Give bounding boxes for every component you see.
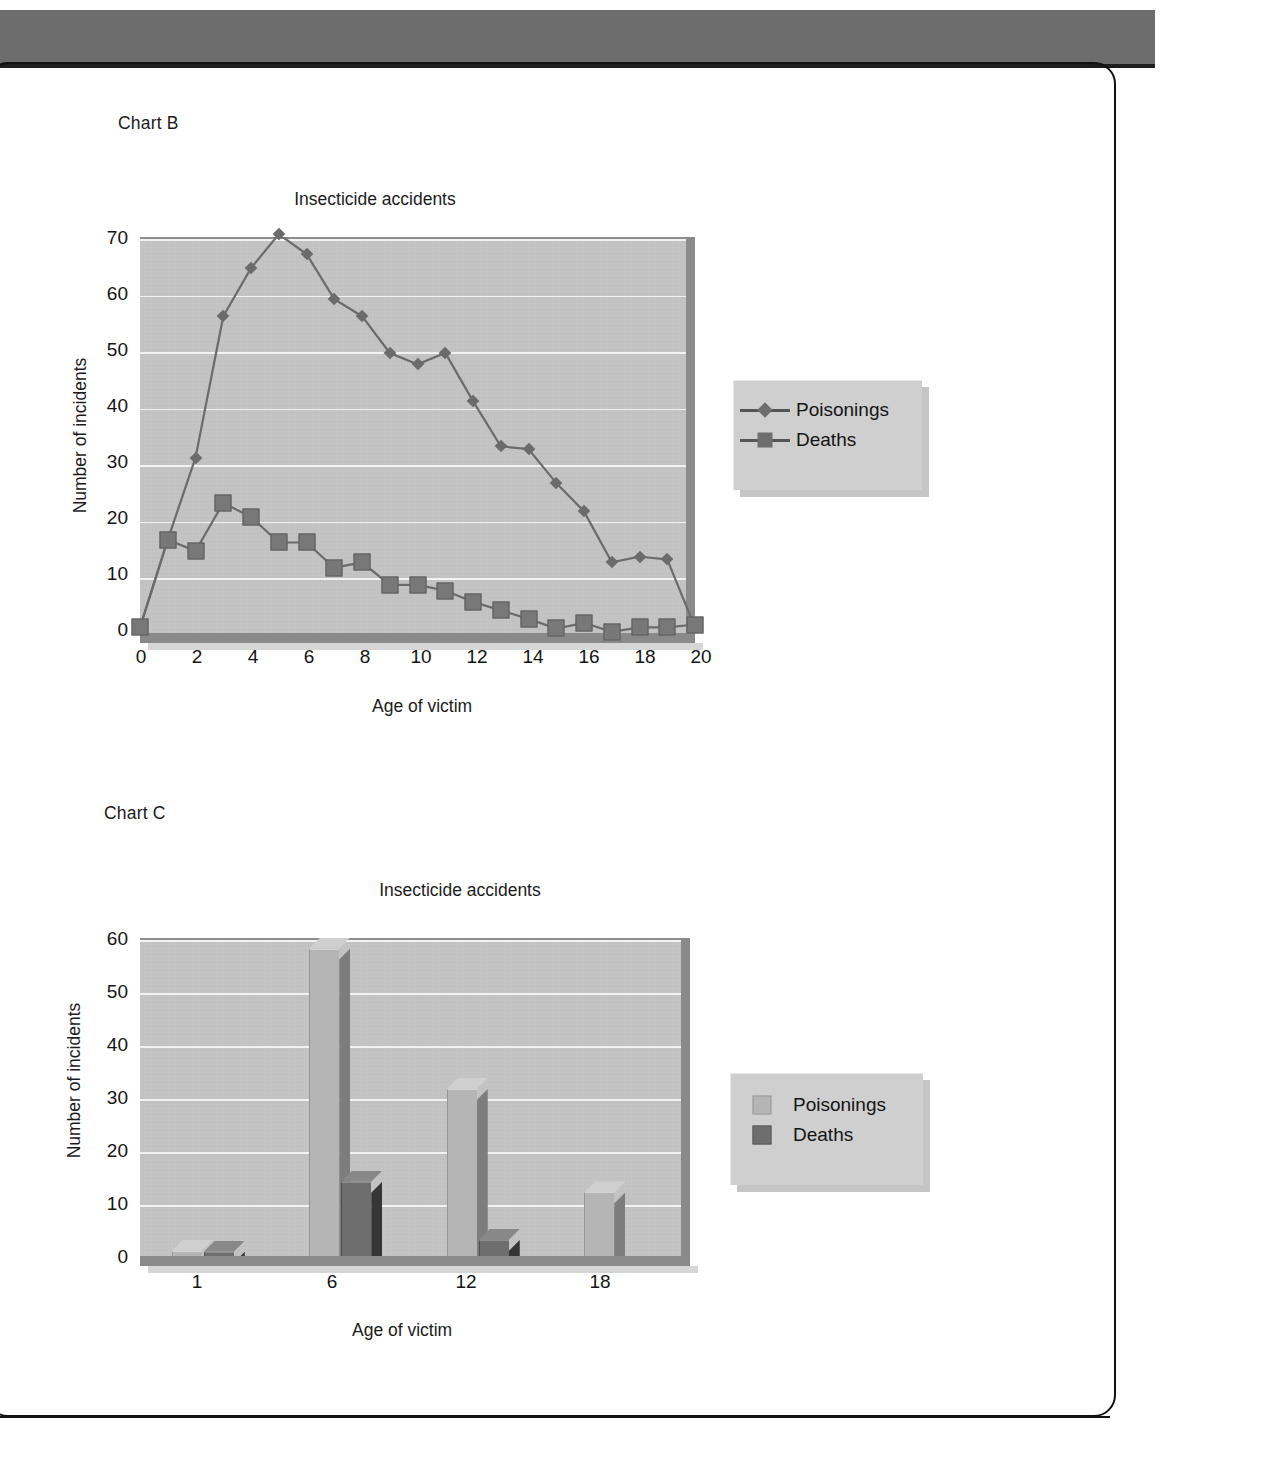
bar-3d-side xyxy=(614,1192,625,1256)
bar-3d-top xyxy=(447,1078,488,1089)
bar[interactable] xyxy=(479,1240,509,1256)
deaths-swatch-icon xyxy=(731,1120,793,1150)
chart-c-ytick: 40 xyxy=(84,1034,128,1056)
poisonings-swatch-icon xyxy=(731,1090,793,1120)
chart-c-legend: Poisonings Deaths xyxy=(730,1073,923,1185)
chart-c-floor xyxy=(140,1256,690,1266)
legend-label-poisonings: Poisonings xyxy=(793,1094,886,1116)
bar-3d-top xyxy=(584,1181,625,1192)
chart-c-xtick: 1 xyxy=(177,1271,217,1293)
chart-c-ytick: 50 xyxy=(84,981,128,1003)
chart-c-xtick: 18 xyxy=(580,1271,620,1293)
bar[interactable] xyxy=(341,1182,371,1256)
chart-c-caption: Chart C xyxy=(104,803,166,824)
bar[interactable] xyxy=(447,1089,477,1256)
legend-label-deaths: Deaths xyxy=(793,1124,853,1146)
bar-3d-top xyxy=(309,938,350,949)
chart-c-x-axis-label: Age of victim xyxy=(352,1320,452,1341)
chart-c-ytick: 30 xyxy=(84,1087,128,1109)
bar[interactable] xyxy=(204,1252,234,1256)
bar-3d-side xyxy=(477,1089,488,1256)
bar-3d-side xyxy=(234,1252,245,1256)
legend-row-poisonings[interactable]: Poisonings xyxy=(731,1090,923,1120)
bar[interactable] xyxy=(309,949,339,1256)
chart-c-block: Chart C Insecticide accidents Number of … xyxy=(0,0,1100,1420)
legend-row-deaths[interactable]: Deaths xyxy=(731,1120,923,1150)
bar-3d-side xyxy=(509,1240,520,1256)
bar[interactable] xyxy=(172,1251,202,1256)
chart-c-ytick: 20 xyxy=(84,1140,128,1162)
bar[interactable] xyxy=(584,1192,614,1256)
bar-3d-side xyxy=(371,1182,382,1256)
chart-c-ytick: 60 xyxy=(84,928,128,950)
chart-c-title: Insecticide accidents xyxy=(300,880,620,901)
chart-c-xtick: 6 xyxy=(312,1271,352,1293)
chart-c-xtick: 12 xyxy=(446,1271,486,1293)
chart-c-y-axis-label: Number of incidents xyxy=(64,971,85,1191)
chart-c-bars-layer xyxy=(140,938,690,1256)
chart-c-ytick: 10 xyxy=(84,1193,128,1215)
chart-c-ytick: 0 xyxy=(84,1246,128,1268)
